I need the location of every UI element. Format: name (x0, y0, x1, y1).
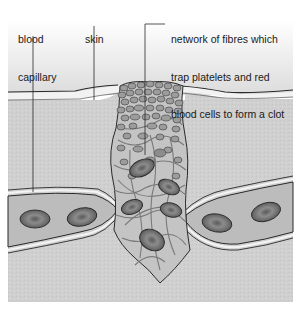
label-line: capillary (18, 71, 57, 84)
label-line: trap platelets and red (171, 71, 284, 84)
label-line: blood (18, 33, 57, 46)
label-skin: skin (85, 8, 104, 58)
label-clot-network: network of fibres which trap platelets a… (171, 8, 284, 133)
label-line: skin (85, 33, 104, 46)
label-line: network of fibres which (171, 33, 284, 46)
label-blood-capillary: blood capillary (18, 8, 57, 96)
label-line: blood cells to form a clot (171, 108, 284, 121)
